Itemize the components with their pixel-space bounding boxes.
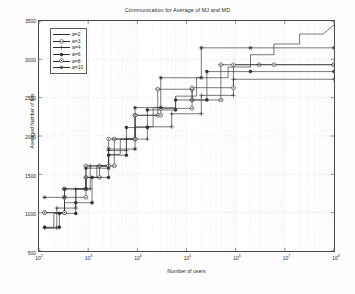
legend-label: a=10 (72, 64, 83, 70)
legend-item-a2[interactable]: a=2 (53, 31, 83, 38)
legend-item-a4[interactable]: a=4 (53, 44, 83, 51)
legend-label: a=6 (72, 51, 80, 57)
legend-item-a3[interactable]: a=3 (53, 38, 83, 45)
legend-item-a10[interactable]: a=10 (53, 64, 83, 71)
x-tick-label: 107 (283, 254, 291, 261)
legend-item-a6[interactable]: a=6 (53, 51, 83, 58)
y-axis-label: Averaged Number of bits (8, 30, 22, 210)
plot-area: 5001000150020002500300035001021031041051… (38, 20, 335, 252)
legend-marker-icon (53, 64, 70, 71)
y-tick-label: 1500 (25, 173, 36, 179)
legend-marker-icon (53, 31, 70, 38)
y-tick-label: 1000 (25, 211, 36, 217)
legend-marker-icon (53, 51, 70, 58)
x-tick-label: 105 (184, 254, 192, 261)
chart-figure: Communication for Average of MJ and MD A… (0, 0, 355, 294)
legend-label: a=8 (72, 58, 80, 64)
x-tick-label: 106 (233, 254, 241, 261)
legend-label: a=3 (72, 38, 80, 44)
chart-title: Communication for Average of MJ and MD (0, 7, 355, 13)
legend-label: a=4 (72, 44, 80, 50)
legend-item-a8[interactable]: a=8 (53, 57, 83, 64)
y-tick-label: 2500 (25, 95, 36, 101)
x-tick-label: 108 (332, 254, 340, 261)
chart-legend[interactable]: a=2a=3a=4a=6a=8a=10 (50, 28, 87, 74)
legend-label: a=2 (72, 31, 80, 37)
x-tick-label: 103 (85, 254, 93, 261)
y-tick-label: 3000 (25, 57, 36, 63)
x-tick-label: 102 (35, 254, 43, 261)
legend-marker-icon (53, 44, 70, 51)
x-axis-label: Number of users (38, 268, 335, 274)
legend-marker-icon (53, 57, 70, 64)
y-axis-label-text: Averaged Number of bits (29, 61, 35, 181)
y-tick-label: 2000 (25, 134, 36, 140)
y-tick-label: 3500 (25, 18, 36, 24)
x-tick-label: 104 (134, 254, 142, 261)
legend-marker-icon (53, 38, 70, 45)
